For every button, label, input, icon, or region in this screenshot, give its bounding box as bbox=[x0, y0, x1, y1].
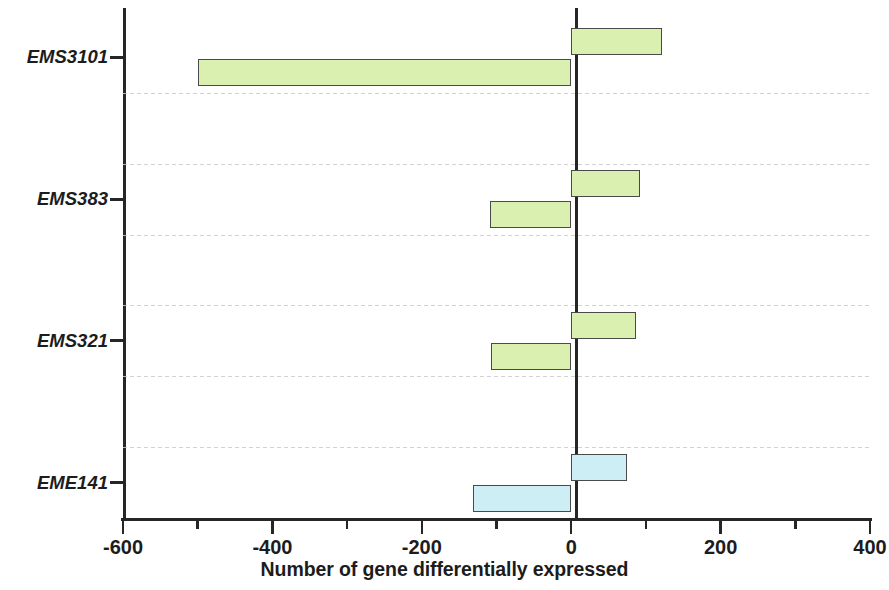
x-axis-tick-label: -200 bbox=[402, 536, 442, 559]
category-row: EMS3101 bbox=[123, 22, 870, 93]
y-axis-label-ems3101: EMS3101 bbox=[27, 46, 108, 68]
x-tick-minor bbox=[645, 521, 648, 529]
bar-up-ems3101 bbox=[571, 28, 662, 55]
x-axis-title: Number of gene differentially expressed bbox=[0, 558, 889, 581]
x-axis-tick-label: -400 bbox=[252, 536, 292, 559]
x-tick-major bbox=[869, 521, 872, 534]
bar-chart-figure: EMS3101EMS383EMS321EME141EME126EME394EME… bbox=[0, 0, 889, 590]
category-row: EME126 bbox=[123, 305, 870, 376]
x-axis-tick-label: 0 bbox=[566, 536, 577, 559]
bar-down-ems3101 bbox=[198, 59, 572, 86]
plot-area: EMS3101EMS383EMS321EME141EME126EME394EME… bbox=[123, 22, 870, 518]
x-tick-minor bbox=[346, 521, 349, 529]
y-axis-label-ems321: EMS321 bbox=[37, 330, 108, 352]
y-axis-tick bbox=[110, 481, 123, 484]
x-tick-minor bbox=[495, 521, 498, 529]
x-tick-minor bbox=[794, 521, 797, 529]
category-row: EME343 bbox=[123, 447, 870, 518]
x-tick-minor bbox=[196, 521, 199, 529]
category-row: EMS321 bbox=[123, 164, 870, 235]
y-axis-tick bbox=[110, 56, 123, 59]
x-tick-major bbox=[271, 521, 274, 534]
y-axis-label-ems383: EMS383 bbox=[37, 188, 108, 210]
y-axis-label-eme141: EME141 bbox=[37, 472, 108, 494]
x-axis-tick-label: -600 bbox=[103, 536, 143, 559]
category-row: EMS383 bbox=[123, 93, 870, 164]
y-axis-tick bbox=[110, 339, 123, 342]
category-row: EME394 bbox=[123, 376, 870, 447]
x-axis-tick-label: 400 bbox=[853, 536, 886, 559]
category-row: EME141 bbox=[123, 235, 870, 306]
x-tick-major bbox=[570, 521, 573, 534]
x-tick-major bbox=[122, 521, 125, 534]
x-tick-major bbox=[421, 521, 424, 534]
x-axis-tick-label: 200 bbox=[704, 536, 737, 559]
x-tick-major bbox=[719, 521, 722, 534]
y-axis-tick bbox=[110, 198, 123, 201]
